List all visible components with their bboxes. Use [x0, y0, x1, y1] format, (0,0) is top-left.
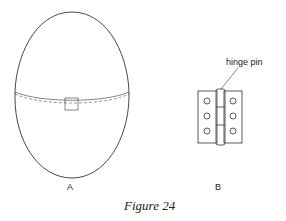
panel-a-label: A — [67, 182, 73, 192]
panel-b-label: B — [215, 182, 221, 192]
hinge-leaf-left — [198, 91, 217, 143]
hinge-on-egg — [65, 98, 78, 110]
seam-line-dashed — [15, 94, 129, 103]
hinge-leaf-right — [224, 91, 242, 143]
seam-line — [15, 92, 129, 100]
hinge-pin-leader — [221, 68, 238, 89]
hinge-b — [198, 68, 242, 145]
hinge-pin-label: hinge pin — [226, 57, 263, 67]
figure-drawing — [0, 0, 286, 221]
figure-caption: Figure 24 — [124, 198, 175, 214]
egg-shape-a — [15, 12, 129, 178]
